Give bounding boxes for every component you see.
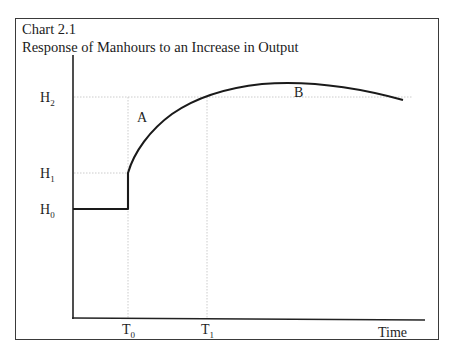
x-tick-t1: T1 (201, 322, 214, 340)
x-axis-label: Time (378, 325, 407, 340)
y-tick-h0: H0 (40, 202, 55, 220)
annotation-b: B (294, 85, 303, 100)
svg-text:H0: H0 (40, 202, 55, 220)
y-tick-h1: H1 (40, 166, 55, 184)
x-tick-t0: T0 (122, 322, 136, 340)
plot-area: H2 H1 H0 T0 T1 Time A B (0, 0, 453, 362)
y-tick-h2: H2 (40, 90, 55, 108)
svg-text:T0: T0 (122, 322, 136, 340)
x-axis (72, 318, 425, 320)
axes (72, 55, 425, 320)
svg-text:H1: H1 (40, 166, 55, 184)
svg-text:T1: T1 (201, 322, 214, 340)
manhours-curve (73, 83, 403, 209)
svg-text:H2: H2 (40, 90, 55, 108)
annotation-a: A (137, 110, 148, 125)
reference-lines (74, 97, 413, 318)
